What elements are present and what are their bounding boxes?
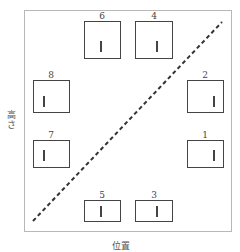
vertical-mark: [213, 96, 215, 107]
box-3: [135, 200, 173, 222]
box-8: [33, 80, 70, 113]
vertical-mark: [100, 41, 102, 52]
box-2-label: 2: [195, 71, 215, 80]
box-6-label: 6: [92, 12, 112, 21]
box-4-label: 4: [144, 12, 164, 21]
vertical-mark: [100, 206, 102, 217]
box-6: [84, 21, 121, 59]
box-5-label: 5: [92, 191, 112, 200]
box-8-label: 8: [41, 71, 61, 80]
vertical-mark: [156, 41, 158, 52]
box-4: [135, 21, 173, 59]
x-axis-label: 位置: [112, 239, 130, 252]
y-axis-label: 高さ: [5, 110, 17, 130]
box-2: [187, 80, 224, 113]
box-7-label: 7: [41, 131, 61, 140]
box-3-label: 3: [144, 191, 164, 200]
vertical-mark: [43, 150, 45, 161]
box-1-label: 1: [195, 131, 215, 140]
vertical-mark: [43, 96, 45, 107]
vertical-mark: [213, 150, 215, 161]
vertical-mark: [156, 206, 158, 217]
box-1: [187, 140, 224, 168]
box-5: [84, 200, 121, 222]
box-7: [33, 140, 70, 168]
